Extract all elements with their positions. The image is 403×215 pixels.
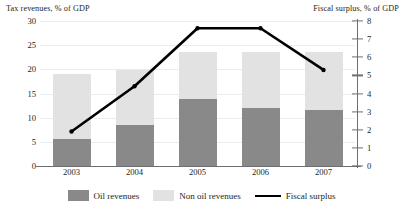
right-axis-tick-mark	[352, 57, 363, 58]
legend-item: Oil revenues	[68, 190, 140, 201]
right-axis-tick-mark	[352, 111, 363, 112]
bar-2005	[179, 52, 217, 166]
right-axis-tick-label: 3	[367, 107, 371, 117]
right-axis-tick-mark	[352, 39, 363, 40]
right-axis-tick-label: 4	[367, 89, 371, 99]
left-axis-tick-label: 10	[2, 113, 36, 123]
left-axis-tick-label: 20	[2, 64, 36, 74]
legend: Oil revenuesNon oil revenuesFiscal surpl…	[0, 190, 403, 201]
x-axis-tick-label: 2007	[294, 167, 354, 177]
left-axis-tick-label: 15	[2, 89, 36, 99]
bar-segment-non-oil	[242, 52, 280, 108]
legend-label: Fiscal surplus	[286, 191, 336, 201]
left-axis-tick-label: 0	[2, 161, 36, 171]
legend-label: Non oil revenues	[179, 191, 240, 201]
bar-segment-oil	[116, 125, 154, 166]
right-axis-tick-mark	[352, 129, 363, 130]
bar-2007	[305, 52, 343, 166]
gridline	[40, 21, 355, 22]
x-axis-tick-label: 2004	[105, 167, 165, 177]
x-axis-tick-label: 2006	[231, 167, 291, 177]
plot-area	[40, 21, 355, 166]
left-axis-tick-label: 5	[2, 137, 36, 147]
bar-segment-oil	[53, 139, 91, 166]
left-axis: 051015202530	[0, 0, 36, 215]
right-axis-tick-label: 8	[367, 16, 371, 26]
right-axis: 012345678	[357, 0, 403, 215]
right-axis-tick-label: 0	[367, 161, 371, 171]
right-axis-tick-mark	[352, 93, 363, 94]
right-axis-tick-label: 7	[367, 34, 371, 44]
bar-segment-oil	[242, 108, 280, 166]
legend-swatch-oil-icon	[68, 190, 89, 201]
chart-container: Tax revenues, % of GDP Fiscal surplus, %…	[0, 0, 403, 215]
right-axis-tick-label: 6	[367, 52, 371, 62]
x-axis-tick-label: 2003	[42, 167, 102, 177]
bar-2006	[242, 52, 280, 166]
legend-item: Fiscal surplus	[255, 191, 336, 201]
legend-item: Non oil revenues	[153, 190, 240, 201]
bar-segment-non-oil	[53, 74, 91, 139]
bar-2004	[116, 70, 154, 166]
bar-segment-non-oil	[179, 52, 217, 98]
right-axis-tick-label: 2	[367, 125, 371, 135]
right-axis-tick-label: 5	[367, 70, 371, 80]
bar-segment-oil	[305, 110, 343, 166]
legend-swatch-line-icon	[255, 195, 281, 197]
right-axis-tick-mark	[352, 75, 363, 76]
bar-segment-non-oil	[305, 52, 343, 110]
legend-swatch-nonoil-icon	[153, 190, 174, 201]
gridline	[40, 45, 355, 46]
bar-2003	[53, 74, 91, 166]
bar-segment-oil	[179, 99, 217, 166]
right-axis-tick-mark	[352, 147, 363, 148]
legend-label: Oil revenues	[94, 191, 140, 201]
right-axis-tick-mark	[352, 20, 363, 21]
right-axis-tick-label: 1	[367, 143, 371, 153]
bar-segment-non-oil	[116, 70, 154, 126]
x-axis-tick-label: 2005	[168, 167, 228, 177]
left-axis-tick-label: 25	[2, 40, 36, 50]
left-axis-tick-label: 30	[2, 16, 36, 26]
